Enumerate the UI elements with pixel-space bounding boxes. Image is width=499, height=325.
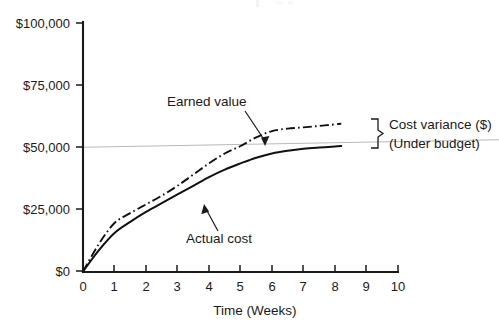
y-tick-label-100000: $100,000: [16, 16, 70, 31]
cost-variance-label-line1: Cost variance ($): [389, 117, 492, 132]
actual-cost-leader-line: [206, 209, 218, 231]
y-tick-label-0: $0: [56, 264, 70, 279]
x-tick-label-10: 10: [391, 279, 405, 294]
y-tick-label-50000: $50,000: [23, 140, 70, 155]
series-line-actual-cost: [83, 146, 341, 271]
y-tick-label-75000: $75,000: [23, 78, 70, 93]
top-crop-artifact-2: [276, 1, 283, 4]
x-tick-label-9: 9: [362, 279, 369, 294]
top-crop-artifact: [256, 0, 259, 7]
cost-variance-brace: [371, 119, 383, 148]
earned-value-chart: $100,000 $75,000 $50,000 $25,000 $0 0 1 …: [0, 0, 499, 325]
earned-value-leader-line: [245, 111, 265, 141]
x-tick-label-0: 0: [79, 279, 86, 294]
top-crop-artifact-3: [288, 1, 293, 4]
x-axis-title: Time (Weeks): [213, 303, 296, 318]
chart-canvas: $100,000 $75,000 $50,000 $25,000 $0 0 1 …: [0, 0, 499, 325]
x-tick-label-5: 5: [236, 279, 243, 294]
series-label-actual-cost: Actual cost: [186, 231, 252, 246]
x-tick-label-3: 3: [173, 279, 180, 294]
x-tick-label-6: 6: [268, 279, 275, 294]
series-line-earned-value: [83, 124, 341, 272]
series-label-earned-value: Earned value: [167, 94, 247, 109]
y-tick-label-25000: $25,000: [23, 202, 70, 217]
x-tick-label-4: 4: [205, 279, 212, 294]
x-tick-label-2: 2: [142, 279, 149, 294]
x-tick-label-7: 7: [299, 279, 306, 294]
x-tick-label-1: 1: [110, 279, 117, 294]
cost-variance-label-line2: (Under budget): [389, 136, 480, 151]
x-tick-label-8: 8: [331, 279, 338, 294]
